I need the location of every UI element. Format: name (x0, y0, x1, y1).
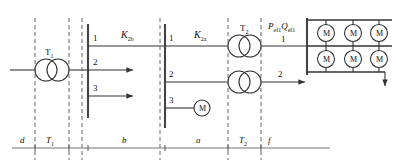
branch-motor-label: M (199, 104, 206, 113)
bus-a-branch-2-number: 2 (169, 70, 174, 79)
axis-label-T2: T2 (239, 136, 247, 147)
transformer-T1-label: T1 (45, 48, 54, 59)
axis-label-T1: T1 (46, 136, 54, 147)
axis-label-d: d (20, 136, 25, 145)
axis-label-a: a (196, 136, 201, 145)
bus-f-branch-number: 1 (281, 35, 286, 44)
motor-label-r2c3: M (376, 55, 383, 64)
axis-label-f: f (268, 136, 271, 145)
bottom-reference-axis (12, 145, 330, 151)
bus-b-branch-2-number: 2 (93, 58, 98, 67)
single-line-diagram: T1 1 2 3 K2b 1 2 3 K2a T2 Pef1Qef1 1 2 M… (0, 0, 396, 166)
transformer-T1-symbol (35, 59, 88, 81)
motor-label-r1c3: M (376, 29, 383, 38)
fault-K2b-label: K2b (121, 30, 134, 42)
bus-b-branch-1-number: 1 (93, 34, 98, 43)
transformer-T2-lower-symbol (228, 71, 261, 93)
motor-label-r2c2: M (350, 55, 357, 64)
zone-separators (35, 18, 261, 160)
fault-K2a-label: K2a (194, 30, 206, 42)
motor-label-r1c1: M (323, 29, 330, 38)
power-flow-label: Pef1Qef1 (268, 22, 295, 33)
axis-label-b: b (122, 136, 127, 145)
transformer-T2-upper-label: T2 (240, 24, 249, 35)
motor-label-r2c1: M (323, 55, 330, 64)
t2b-out-branch-number: 2 (278, 70, 283, 79)
transformer-T2-upper-symbol (228, 35, 261, 57)
bus-a-branch-3-number: 3 (169, 96, 174, 105)
bus-b-branch-3-number: 3 (93, 84, 98, 93)
bus-a-branch-1-number: 1 (169, 34, 174, 43)
motor-label-r1c2: M (350, 29, 357, 38)
